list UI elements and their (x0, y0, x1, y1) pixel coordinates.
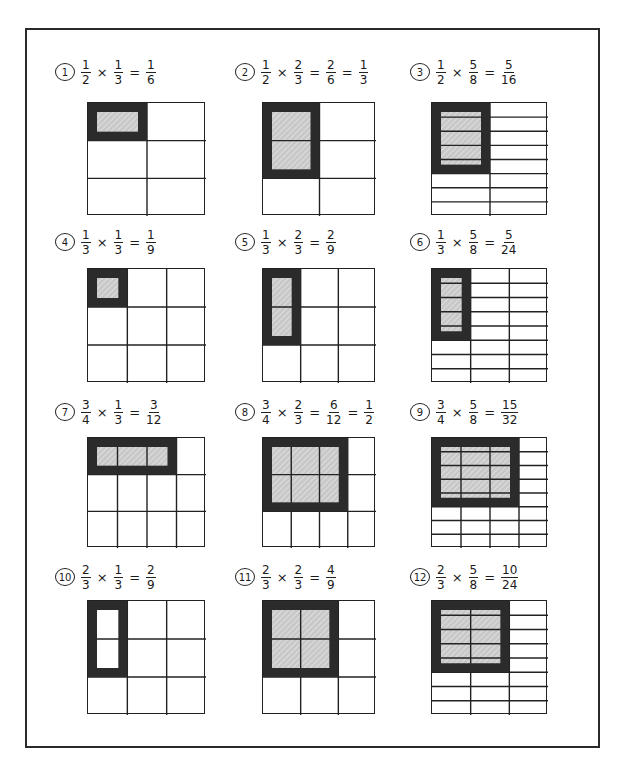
denominator: 12 (146, 413, 161, 426)
area-model-grid (262, 268, 375, 382)
denominator: 3 (115, 73, 123, 86)
fraction: 1024 (501, 564, 518, 591)
area-model-grid (87, 102, 205, 215)
problem-equation: 1123×23=49 (235, 560, 336, 594)
numerator: 1 (146, 229, 156, 243)
numerator: 5 (504, 59, 514, 73)
numerator: 2 (436, 564, 446, 578)
problem-number: 12 (410, 568, 430, 586)
fraction: 19 (146, 229, 156, 256)
denominator: 3 (437, 578, 445, 591)
times-sign: × (452, 570, 463, 585)
area-model-grid (262, 600, 375, 714)
equals-sign: = (484, 235, 495, 250)
denominator: 3 (360, 73, 368, 86)
problem-number: 4 (55, 233, 75, 251)
denominator: 3 (82, 578, 90, 591)
fraction: 13 (359, 59, 369, 86)
denominator: 2 (262, 73, 270, 86)
numerator: 1 (114, 229, 124, 243)
equals-sign: = (484, 570, 495, 585)
numerator: 1 (261, 59, 271, 73)
equals-sign: = (484, 405, 495, 420)
fraction: 34 (261, 399, 271, 426)
fraction: 12 (81, 59, 91, 86)
problem-number: 6 (410, 233, 430, 251)
fraction: 29 (146, 564, 156, 591)
denominator: 9 (327, 243, 335, 256)
fraction: 12 (261, 59, 271, 86)
area-model-grid (87, 268, 205, 382)
problem-equation: 413×13=19 (55, 225, 156, 259)
equals-sign: = (342, 65, 353, 80)
denominator: 2 (82, 73, 90, 86)
fraction: 524 (501, 229, 516, 256)
fraction: 23 (436, 564, 446, 591)
denominator: 4 (262, 413, 270, 426)
problem-number: 9 (410, 403, 430, 421)
problem-equation: 1223×58=1024 (410, 560, 518, 594)
denominator: 3 (115, 243, 123, 256)
area-model-grid (431, 600, 547, 714)
numerator: 1 (81, 229, 91, 243)
problem-equation: 1023×13=29 (55, 560, 156, 594)
denominator: 9 (327, 578, 335, 591)
equals-sign: = (309, 405, 320, 420)
problem-equation: 734×13=312 (55, 395, 161, 429)
problem-equation: 312×58=516 (410, 55, 516, 89)
denominator: 6 (147, 73, 155, 86)
numerator: 2 (326, 229, 336, 243)
denominator: 32 (502, 413, 517, 426)
equals-sign: = (129, 235, 140, 250)
fraction: 23 (294, 564, 304, 591)
numerator: 2 (261, 564, 271, 578)
equals-sign: = (484, 65, 495, 80)
numerator: 4 (326, 564, 336, 578)
problem-number: 5 (235, 233, 255, 251)
numerator: 3 (81, 399, 91, 413)
problem-equation: 613×58=524 (410, 225, 516, 259)
fraction: 58 (469, 59, 479, 86)
denominator: 9 (147, 243, 155, 256)
denominator: 24 (501, 243, 516, 256)
equals-sign: = (129, 65, 140, 80)
fraction: 13 (114, 399, 124, 426)
problem-number: 1 (55, 63, 75, 81)
numerator: 5 (469, 399, 479, 413)
times-sign: × (277, 405, 288, 420)
equals-sign: = (129, 570, 140, 585)
numerator: 6 (329, 399, 339, 413)
fraction: 29 (326, 229, 336, 256)
denominator: 9 (147, 578, 155, 591)
denominator: 8 (470, 413, 478, 426)
problem-equation: 112×13=16 (55, 55, 156, 89)
fraction: 34 (436, 399, 446, 426)
fraction: 16 (146, 59, 156, 86)
numerator: 3 (149, 399, 159, 413)
numerator: 5 (504, 229, 514, 243)
numerator: 3 (436, 399, 446, 413)
fraction: 12 (364, 399, 374, 426)
fraction: 58 (469, 564, 479, 591)
problem-number: 7 (55, 403, 75, 421)
times-sign: × (452, 65, 463, 80)
fraction: 26 (326, 59, 336, 86)
numerator: 10 (501, 564, 518, 578)
numerator: 2 (294, 399, 304, 413)
denominator: 3 (295, 73, 303, 86)
denominator: 3 (115, 413, 123, 426)
problem-number: 10 (55, 568, 75, 586)
area-model-grid (262, 437, 375, 547)
denominator: 8 (470, 243, 478, 256)
fraction: 516 (501, 59, 516, 86)
fraction: 13 (114, 229, 124, 256)
fraction: 34 (81, 399, 91, 426)
fraction: 23 (294, 399, 304, 426)
fraction: 1532 (501, 399, 518, 426)
numerator: 1 (114, 564, 124, 578)
denominator: 2 (365, 413, 373, 426)
denominator: 3 (295, 243, 303, 256)
fraction: 13 (81, 229, 91, 256)
denominator: 3 (262, 578, 270, 591)
denominator: 3 (115, 578, 123, 591)
